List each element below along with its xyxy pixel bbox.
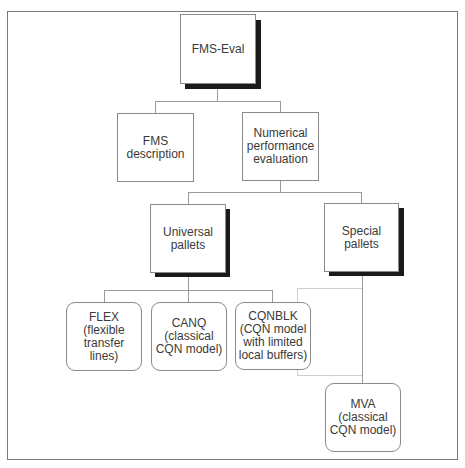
node-numerical-performance-evaluation: Numerical performance evaluation — [242, 112, 319, 181]
node-special-pallets: Special pallets — [324, 203, 399, 272]
bracket-top — [297, 288, 362, 289]
node-canq: CANQ (classical CQN model) — [151, 302, 227, 371]
node-cqnblk: CQNBLK (CQN model with limited local buf… — [235, 302, 311, 370]
connector-universal-down — [188, 277, 189, 290]
connector-special-to-mva — [362, 276, 363, 383]
connector-level2-horizontal — [188, 192, 362, 193]
connector-level1-horizontal — [155, 101, 281, 102]
connector-to-canq — [188, 290, 189, 302]
connector-to-cqnblk — [272, 290, 273, 302]
node-fms-description: FMS description — [117, 113, 194, 182]
node-universal-pallets: Universal pallets — [150, 204, 226, 273]
connector-to-flex — [104, 290, 105, 302]
connector-to-universal — [188, 192, 189, 204]
connector-numerical-down — [280, 180, 281, 192]
node-mva: MVA (classical CQN model) — [325, 383, 401, 452]
connector-to-fms-description — [155, 101, 156, 113]
connector-root-down — [217, 89, 218, 101]
node-fms-eval: FMS-Eval — [180, 14, 256, 84]
node-flex: FLEX (flexible transfer lines) — [66, 302, 142, 371]
bracket-bottom — [297, 375, 362, 376]
